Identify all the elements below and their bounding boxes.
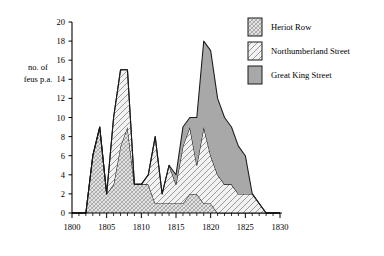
legend-item: Northumberland Street	[248, 42, 351, 60]
y-axis-title-line2: feus p.a.	[24, 74, 53, 84]
legend-label: Heriot Row	[271, 22, 312, 32]
x-tick-label: 1800	[64, 222, 81, 232]
y-tick-label: 18	[57, 36, 66, 46]
y-tick-label: 4	[61, 170, 66, 180]
x-tick-labels: 1800180518101815182018251830	[64, 222, 289, 232]
y-tick-label: 14	[57, 74, 66, 84]
y-tick-label: 6	[61, 151, 65, 161]
y-tick-label: 16	[57, 55, 66, 65]
x-tick-label: 1820	[202, 222, 219, 232]
legend-item: Heriot Row	[248, 18, 312, 36]
chart-canvas: 02468101214161820 1800180518101815182018…	[0, 0, 384, 256]
x-tick-label: 1810	[133, 222, 150, 232]
solid-gray-swatch	[248, 66, 262, 84]
legend-label: Great King Street	[271, 70, 332, 80]
y-axis-title-line1: no. of	[28, 62, 48, 72]
y-tick-labels: 02468101214161820	[57, 17, 66, 218]
legend-item: Great King Street	[248, 66, 332, 84]
fine-cross-hatch-swatch	[248, 18, 262, 36]
y-tick-label: 12	[57, 93, 66, 103]
x-tick-label: 1830	[272, 222, 289, 232]
y-tick-label: 2	[61, 189, 65, 199]
x-tick-label: 1815	[168, 222, 185, 232]
x-tick-label: 1825	[237, 222, 254, 232]
chart-legend: Heriot RowNorthumberland StreetGreat Kin…	[248, 18, 351, 84]
y-axis-title: no. of feus p.a.	[24, 62, 53, 84]
wide-diagonal-hatch-swatch	[248, 42, 262, 60]
legend-label: Northumberland Street	[271, 46, 351, 56]
feus-area-chart: 02468101214161820 1800180518101815182018…	[0, 0, 384, 256]
x-tick-label: 1805	[98, 222, 115, 232]
y-tick-label: 10	[57, 113, 66, 123]
y-tick-label: 8	[61, 132, 65, 142]
y-tick-label: 20	[57, 17, 66, 27]
y-tick-label: 0	[61, 208, 65, 218]
